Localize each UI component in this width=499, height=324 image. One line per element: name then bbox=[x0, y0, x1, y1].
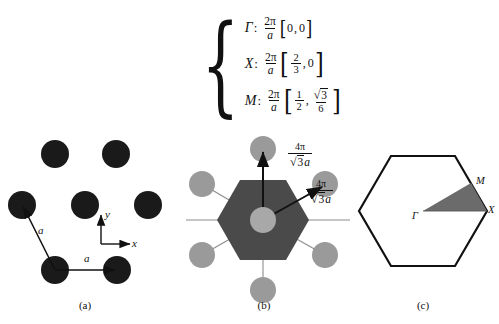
x-coord-denominator: 3 bbox=[291, 63, 300, 75]
reciprocal-vector-b2-label: 4π √3a bbox=[304, 179, 338, 205]
x-prefactor-fraction: 2π a bbox=[263, 51, 279, 76]
b1-sqrt-group: √3a bbox=[290, 154, 310, 169]
gamma-prefactor-fraction: 2π a bbox=[262, 15, 278, 40]
m-coord-x-denominator: 2 bbox=[295, 100, 304, 112]
m-comma: , bbox=[306, 93, 309, 108]
m-coord-y-denominator: 6 bbox=[316, 102, 325, 114]
sqrt-three-group: √3 bbox=[314, 87, 328, 102]
gamma-close-bracket: ] bbox=[306, 18, 313, 39]
panel-b-caption: (b) bbox=[244, 299, 284, 311]
b2-radicand: 3 bbox=[318, 192, 326, 205]
panel-a-real-space-lattice: a a y x (a) bbox=[0, 132, 176, 292]
m-close-bracket: ] bbox=[332, 87, 341, 115]
m-open-bracket: [ bbox=[284, 87, 293, 115]
origin-node bbox=[250, 207, 276, 233]
x-close-bracket: ] bbox=[315, 50, 324, 78]
gamma-prefactor-denominator: a bbox=[265, 28, 275, 41]
point-label-m: M bbox=[476, 175, 485, 186]
b1-label-numerator: 4π bbox=[293, 142, 307, 153]
b2-radical-sign: √ bbox=[311, 193, 318, 206]
x-symbol: X bbox=[245, 56, 254, 72]
lattice-atom bbox=[8, 191, 36, 219]
m-prefactor-fraction: 2π a bbox=[266, 88, 282, 113]
gamma-y-value: 0 bbox=[299, 21, 305, 36]
panel-a-caption: (a) bbox=[65, 299, 105, 311]
m-coord-y-fraction: √3 6 bbox=[312, 87, 330, 114]
lattice-atom bbox=[71, 191, 99, 219]
panel-b-brillouin-zone: 4π √3a 4π √3a (b) bbox=[180, 132, 356, 292]
m-coord-y-numerator: √3 bbox=[312, 87, 330, 102]
lattice-vector-a1 bbox=[24, 207, 56, 270]
m-colon: : bbox=[257, 93, 261, 109]
b1-label-denominator: √3a bbox=[288, 153, 312, 169]
x-comma: , bbox=[303, 56, 306, 71]
axis-label-y: y bbox=[105, 208, 110, 220]
x-coord-fraction: 2 3 bbox=[291, 52, 300, 75]
lattice-atom bbox=[134, 191, 162, 219]
gamma-prefactor-numerator: 2π bbox=[262, 15, 278, 27]
symmetry-point-row-m: M : 2π a [ 1 2 , √3 6 ] bbox=[245, 87, 342, 115]
reciprocal-lattice-node bbox=[189, 242, 215, 268]
reciprocal-lattice-node bbox=[189, 171, 215, 197]
lattice-atom bbox=[102, 140, 130, 168]
b2-label-denominator: √3a bbox=[309, 190, 333, 206]
lattice-atom bbox=[41, 140, 69, 168]
b1-radicand: 3 bbox=[297, 155, 305, 168]
m-coord-x-fraction: 1 2 bbox=[295, 89, 304, 112]
lattice-vector-a2-label: a bbox=[84, 252, 90, 264]
b1-radical-sign: √ bbox=[290, 156, 297, 169]
x-open-bracket: [ bbox=[281, 50, 290, 78]
panel-c-caption: (c) bbox=[403, 299, 443, 311]
reciprocal-vector-b1-label: 4π √3a bbox=[283, 142, 317, 168]
radical-sign: √ bbox=[314, 89, 321, 102]
symmetry-points-rows: Γ : 2π a [ 0 , 0 ] X : 2π a [ bbox=[245, 15, 342, 114]
m-coord-x-numerator: 1 bbox=[295, 89, 304, 100]
m-prefactor-numerator: 2π bbox=[266, 88, 282, 100]
radicand-three: 3 bbox=[320, 88, 328, 101]
x-prefactor-numerator: 2π bbox=[263, 51, 279, 63]
panel-c-irreducible-zone: Γ M X (c) bbox=[352, 148, 499, 292]
panel-c-graphic bbox=[352, 148, 499, 278]
x-y-value: 0 bbox=[308, 56, 314, 71]
panel-a-graphic bbox=[0, 132, 176, 292]
x-coord-numerator: 2 bbox=[291, 52, 300, 63]
symmetry-points-equation: { Γ : 2π a [ 0 , 0 ] X : 2π bbox=[186, 4, 346, 126]
axis-label-x: x bbox=[132, 237, 137, 249]
b2-sqrt-group: √3a bbox=[311, 191, 331, 206]
b1-denominator-var: a bbox=[304, 156, 310, 168]
b1-label-fraction: 4π √3a bbox=[288, 142, 312, 168]
point-label-gamma: Γ bbox=[412, 210, 418, 221]
figure-canvas: { Γ : 2π a [ 0 , 0 ] X : 2π bbox=[0, 0, 499, 324]
point-label-x: X bbox=[488, 204, 494, 215]
symmetry-point-row-gamma: Γ : 2π a [ 0 , 0 ] bbox=[245, 15, 342, 40]
panel-b-graphic bbox=[180, 132, 356, 308]
curly-brace-glyph: { bbox=[201, 15, 239, 114]
b2-denominator-var: a bbox=[325, 193, 331, 205]
gamma-x-value: 0 bbox=[287, 21, 293, 36]
gamma-symbol: Γ bbox=[245, 20, 253, 36]
gamma-open-bracket: [ bbox=[280, 18, 287, 39]
reciprocal-lattice-node bbox=[312, 242, 338, 268]
gamma-comma: , bbox=[294, 21, 297, 36]
irreducible-wedge bbox=[423, 183, 487, 211]
lattice-vector-a1-label: a bbox=[38, 224, 44, 236]
m-prefactor-denominator: a bbox=[269, 100, 279, 113]
gamma-colon: : bbox=[254, 20, 258, 36]
m-symbol: M bbox=[245, 93, 257, 109]
b2-label-numerator: 4π bbox=[314, 179, 328, 190]
b2-label-fraction: 4π √3a bbox=[309, 179, 333, 205]
x-prefactor-denominator: a bbox=[266, 63, 276, 76]
x-colon: : bbox=[254, 56, 258, 72]
symmetry-point-row-x: X : 2π a [ 2 3 , 0 ] bbox=[245, 50, 342, 78]
